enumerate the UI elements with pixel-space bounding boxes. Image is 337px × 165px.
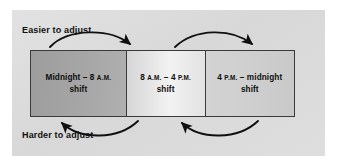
shift-box-2-line2: shift bbox=[157, 85, 175, 94]
shift-box-3-text: 4 P.M. – midnight shift bbox=[217, 72, 282, 95]
shift-rotation-diagram: Easier to adjust Harder to adjust Midnig… bbox=[0, 0, 337, 165]
shift-box-1-line1-smallcaps: A.M. bbox=[97, 74, 111, 81]
shift-box-1-line2: shift bbox=[69, 85, 87, 94]
shift-box-1-line1-prefix: Midnight – 8 bbox=[46, 73, 97, 82]
shift-box-3-line1-middle: – midnight bbox=[237, 73, 282, 82]
shift-box-4pm-to-midnight: 4 P.M. – midnight shift bbox=[205, 51, 294, 116]
shift-box-1-text: Midnight – 8 A.M. shift bbox=[46, 72, 112, 95]
shift-box-3-line2: shift bbox=[241, 85, 259, 94]
shift-box-2-text: 8 A.M. – 4 P.M. shift bbox=[140, 72, 191, 95]
shift-box-2-line1-middle: – 4 bbox=[162, 73, 178, 82]
shift-box-8am-to-4pm: 8 A.M. – 4 P.M. shift bbox=[126, 51, 205, 116]
shift-box-2-line1-smallcaps: A.M. bbox=[147, 74, 161, 81]
shift-box-midnight-to-8am: Midnight – 8 A.M. shift bbox=[31, 51, 126, 116]
shift-box-3-line1-smallcaps: P.M. bbox=[224, 74, 237, 81]
label-harder-to-adjust: Harder to adjust bbox=[22, 130, 93, 140]
label-easier-to-adjust: Easier to adjust bbox=[22, 25, 91, 35]
shift-box-2-line1-smallcaps-2: P.M. bbox=[178, 74, 191, 81]
shift-box-row: Midnight – 8 A.M. shift 8 A.M. – 4 P.M. … bbox=[30, 50, 295, 117]
